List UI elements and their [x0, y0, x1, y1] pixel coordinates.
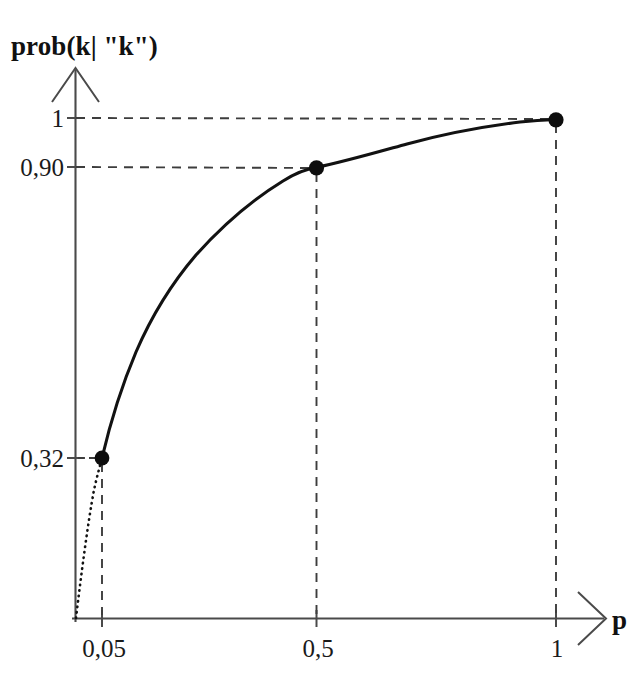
datapoint-05-090	[309, 160, 324, 175]
x-tick-label-1: 1	[551, 635, 564, 662]
probability-curve-chart: prob(k| "k") p 1 0,90 0,32 0,05 0,5 1	[0, 0, 639, 683]
x-axis-title: p	[612, 605, 627, 635]
chart-background	[0, 0, 639, 683]
y-tick-label-090: 0,90	[20, 154, 64, 181]
y-tick-label-1: 1	[52, 105, 65, 132]
guide-horizontal-090	[76, 167, 312, 168]
datapoint-1-1	[548, 112, 563, 127]
datapoint-005-032	[95, 451, 110, 466]
x-tick-label-05: 0,5	[302, 635, 333, 662]
x-tick-label-005: 0,05	[82, 635, 126, 662]
y-axis-title: prob(k| "k")	[11, 31, 158, 61]
y-tick-label-032: 0,32	[20, 445, 64, 472]
